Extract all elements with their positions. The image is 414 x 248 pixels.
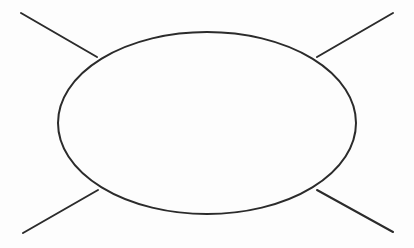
line-top-left xyxy=(21,13,97,57)
diagram-svg xyxy=(0,0,414,248)
line-bottom-right xyxy=(317,190,393,232)
line-bottom-left xyxy=(23,190,98,233)
line-top-right xyxy=(317,13,393,57)
central-ellipse xyxy=(58,32,356,214)
diagram-canvas xyxy=(0,0,414,248)
